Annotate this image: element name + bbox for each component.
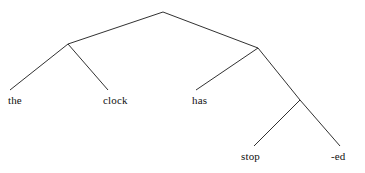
leaf-label-ed: -ed (331, 151, 346, 162)
branch-vp-to-v (258, 48, 300, 100)
branch-np-to-the (10, 44, 68, 90)
syntax-tree-figure: the clock has stop -ed (0, 0, 365, 173)
leaf-label-has: has (192, 95, 207, 106)
branch-root-to-np (68, 12, 163, 44)
branch-vp-to-has (196, 48, 258, 90)
tree-branches (0, 0, 365, 173)
leaf-label-stop: stop (241, 151, 260, 162)
branch-v-to-stop (254, 100, 300, 146)
branch-v-to-ed (300, 100, 340, 146)
leaf-label-clock: clock (103, 95, 128, 106)
branch-np-to-clock (68, 44, 108, 90)
branch-root-to-vp (163, 12, 258, 48)
leaf-label-the: the (8, 95, 22, 106)
